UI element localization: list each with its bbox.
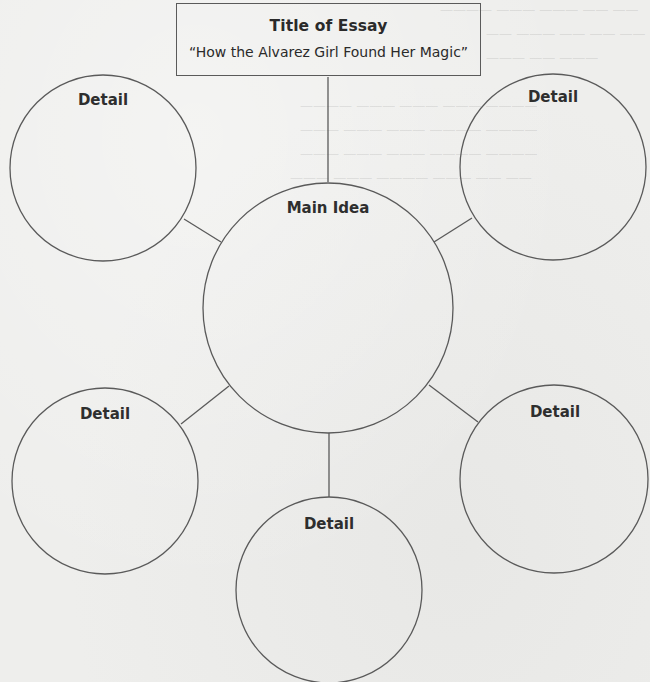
connector-main-top-right [434,218,472,242]
connector-main-bottom-left [181,386,229,424]
detail-label-bottom: Detail [269,515,389,533]
detail-label-top-left: Detail [43,91,163,109]
title-heading: Title of Essay [177,17,480,35]
essay-title-box: Title of Essay “How the Alvarez Girl Fou… [176,3,481,76]
detail-label-bottom-left: Detail [45,405,165,423]
detail-label-top-right: Detail [493,88,613,106]
main-idea-label: Main Idea [268,199,388,217]
essay-title-value: “How the Alvarez Girl Found Her Magic” [177,44,480,60]
worksheet-page: ———— ——— ——— —— —— —— ——— —— —— —— ——— —… [0,0,650,682]
connector-main-top-left [184,219,221,242]
connector-main-bottom-right [429,385,478,422]
detail-label-bottom-right: Detail [495,403,615,421]
main-idea-circle [203,183,453,433]
